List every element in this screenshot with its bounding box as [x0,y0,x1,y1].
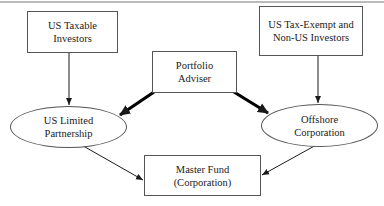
us-limited-partnership-node: US Limited Partnership [10,106,127,148]
node-label-line: Master Fund [176,163,229,176]
node-label-line: Portfolio [176,59,213,72]
arrow-offshore-to-master [262,144,318,175]
node-label-line: Offshore [301,113,338,126]
node-label-line: Adviser [178,72,211,85]
node-label-line: Non-US Investors [273,31,349,44]
us-taxable-investors-node: US Taxable Investors [27,11,118,53]
node-label-line: US Tax-Exempt and [268,18,353,31]
portfolio-adviser-node: Portfolio Adviser [152,51,237,93]
master-fund-node: Master Fund (Corporation) [144,155,261,196]
arrow-adviser-to-lp [120,92,154,115]
node-label-line: Investors [53,32,92,45]
node-label-line: US Limited [44,114,93,127]
node-label-line: Partnership [45,127,93,140]
node-label-line: US Taxable [48,19,97,32]
arrow-lp-to-master [78,143,143,180]
arrow-adviser-to-offshore [234,92,268,113]
node-label-line: (Corporation) [174,176,232,189]
us-tax-exempt-investors-node: US Tax-Exempt and Non-US Investors [259,6,363,56]
offshore-corporation-node: Offshore Corporation [261,104,378,147]
node-label-line: Corporation [294,126,345,139]
